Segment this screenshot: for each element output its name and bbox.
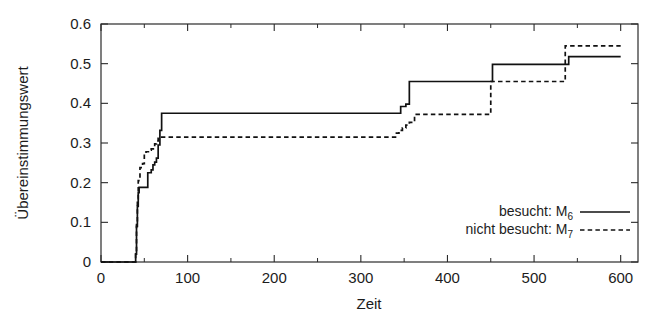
y-tick-label: 0.6: [70, 15, 91, 32]
x-tick-label: 600: [608, 269, 633, 286]
y-tick-label: 0.2: [70, 174, 91, 191]
x-tick-label: 400: [435, 269, 460, 286]
legend-subscript-2: 7: [567, 229, 573, 240]
y-tick-label: 0.4: [70, 94, 91, 111]
y-tick-label: 0: [83, 253, 91, 270]
y-tick-label: 0.5: [70, 55, 91, 72]
x-tick-label: 100: [175, 269, 200, 286]
x-tick-label: 300: [348, 269, 373, 286]
chart-figure: 0100200300400500600 00.10.20.30.40.50.6 …: [0, 0, 668, 325]
x-tick-label: 200: [262, 269, 287, 286]
legend-text-1: besucht: M: [499, 203, 567, 219]
legend-subscript-1: 6: [567, 211, 573, 222]
chart-canvas: 0100200300400500600 00.10.20.30.40.50.6 …: [0, 0, 668, 325]
y-tick-label: 0.3: [70, 134, 91, 151]
y-tick-label: 0.1: [70, 213, 91, 230]
legend-text-2: nicht besucht: M: [466, 221, 568, 237]
y-axis-title: Übereinstimmungswert: [14, 65, 31, 219]
x-tick-label: 500: [522, 269, 547, 286]
x-axis-title: Zeit: [356, 295, 382, 312]
x-tick-label: 0: [97, 269, 105, 286]
